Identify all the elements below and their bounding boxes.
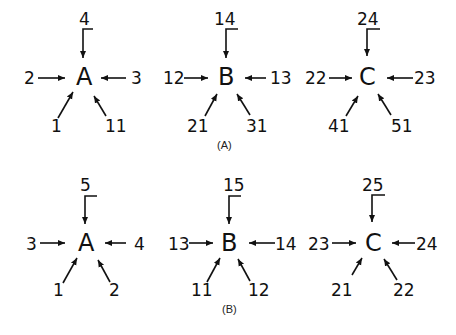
label-bottom-left: 21 — [187, 116, 209, 136]
arrow-bottom-right — [94, 96, 106, 116]
label-bottom-left: 41 — [328, 116, 350, 136]
arrow-top — [226, 29, 238, 58]
arrow-bottom-left — [205, 94, 217, 116]
node-group-c: 24 C 22 23 41 51 — [305, 9, 436, 136]
arrow-bottom-left — [346, 96, 358, 116]
label-top: 4 — [79, 9, 90, 29]
node-label: A — [76, 63, 93, 91]
arrow-bottom-left — [352, 258, 362, 275]
label-top: 5 — [80, 175, 91, 195]
node-label: A — [78, 229, 95, 257]
arrow-top — [367, 29, 380, 56]
label-left: 12 — [163, 68, 185, 88]
label-bottom-right: 22 — [393, 280, 415, 300]
label-top: 24 — [357, 9, 379, 29]
arrow-bottom-right — [237, 94, 250, 115]
label-bottom-right: 51 — [391, 116, 413, 136]
label-right: 13 — [270, 68, 292, 88]
label-bottom-left: 1 — [53, 280, 64, 300]
arrow-bottom-left — [63, 258, 77, 283]
label-right: 23 — [414, 68, 436, 88]
label-right: 24 — [416, 234, 438, 254]
label-top: 25 — [362, 175, 384, 195]
label-left: 3 — [26, 234, 37, 254]
arrow-bottom-right — [238, 259, 250, 281]
arrow-top — [372, 195, 385, 222]
node-group-b: 14 B 12 13 21 31 — [163, 9, 292, 136]
diagram-canvas: 4 A 2 3 1 11 14 B 12 13 21 31 — [0, 0, 456, 335]
panel-b: 5 A 3 4 1 2 15 B 13 14 11 12 — [26, 175, 438, 315]
label-left: 23 — [308, 234, 330, 254]
node-group-a: 4 A 2 3 1 11 — [24, 9, 142, 136]
node-group-c: 25 C 23 24 21 22 — [308, 175, 438, 300]
label-right: 4 — [134, 234, 145, 254]
caption-a: (A) — [217, 139, 232, 151]
label-bottom-right: 12 — [248, 280, 270, 300]
arrow-bottom-left — [58, 92, 73, 118]
arrow-top — [85, 196, 97, 224]
arrow-top — [83, 29, 93, 58]
label-bottom-right: 2 — [109, 280, 120, 300]
label-top: 15 — [223, 175, 245, 195]
node-group-b: 15 B 13 14 11 12 — [168, 175, 297, 300]
label-left: 13 — [168, 234, 190, 254]
panel-a: 4 A 2 3 1 11 14 B 12 13 21 31 — [24, 9, 436, 151]
label-bottom-right: 11 — [105, 116, 127, 136]
label-bottom-left: 1 — [51, 116, 62, 136]
label-bottom-right: 31 — [246, 116, 268, 136]
label-right: 3 — [131, 68, 142, 88]
node-label: B — [218, 63, 234, 91]
node-label: B — [221, 229, 237, 257]
label-left: 2 — [24, 68, 35, 88]
label-top: 14 — [214, 9, 236, 29]
label-bottom-left: 21 — [331, 280, 353, 300]
arrow-bottom-right — [98, 260, 110, 282]
arrow-bottom-right — [384, 259, 397, 280]
label-right: 14 — [275, 234, 297, 254]
label-left: 22 — [305, 68, 327, 88]
label-bottom-left: 11 — [191, 280, 213, 300]
node-label: C — [359, 63, 376, 91]
node-group-a: 5 A 3 4 1 2 — [26, 175, 145, 300]
node-label: C — [365, 229, 382, 257]
arrow-bottom-left — [207, 258, 220, 282]
caption-b: (B) — [222, 303, 237, 315]
arrow-top — [229, 196, 241, 224]
arrow-bottom-right — [378, 94, 391, 115]
